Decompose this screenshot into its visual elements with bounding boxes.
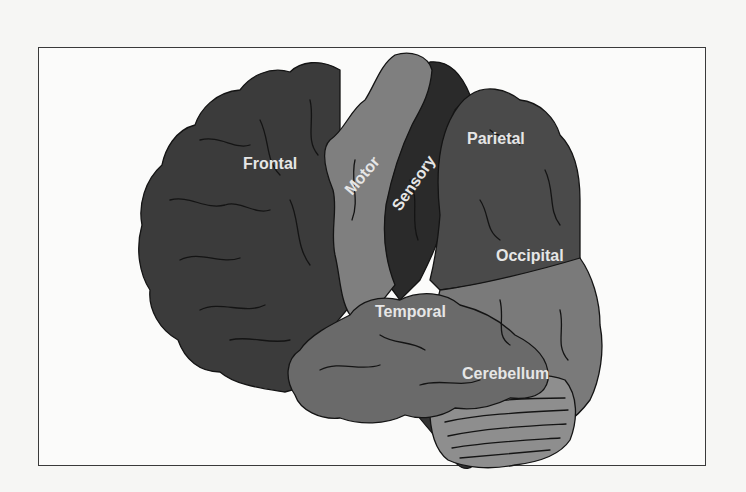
brain-diagram: Frontal Motor Sensory Parietal Occipital… — [0, 0, 746, 492]
label-parietal: Parietal — [467, 130, 525, 147]
label-occipital: Occipital — [496, 247, 564, 264]
label-temporal: Temporal — [375, 303, 446, 320]
label-frontal: Frontal — [243, 155, 297, 172]
label-cerebellum: Cerebellum — [462, 365, 549, 382]
